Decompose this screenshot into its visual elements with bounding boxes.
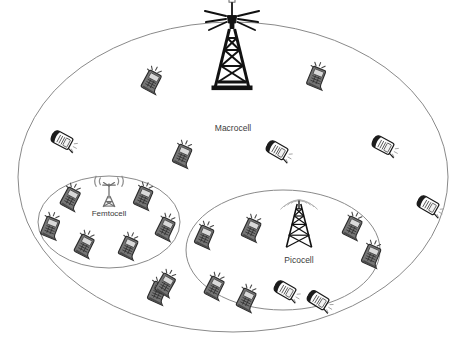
phone-pico-nw <box>239 212 267 243</box>
phone-macro-center-l <box>170 138 198 169</box>
user-equipment-group <box>38 60 445 314</box>
phone-macro-se <box>305 289 335 314</box>
phone-femto-se <box>116 230 144 261</box>
macrocell-tower <box>205 0 259 90</box>
macrocell-label: Macrocell <box>215 123 251 133</box>
picocell-label: Picocell <box>284 255 313 265</box>
phone-femto-ne <box>131 180 159 211</box>
phone-macro-ne-upper <box>304 60 331 90</box>
picocell-tower <box>280 200 317 247</box>
phone-femto-nw <box>58 181 87 212</box>
coverage-ellipses <box>18 22 448 332</box>
phone-femto-sw <box>72 228 100 259</box>
phone-macro-center-r <box>264 139 294 164</box>
macrocell-boundary <box>18 22 448 332</box>
phone-pico-e <box>359 238 387 269</box>
phone-macro-e-right <box>370 134 400 158</box>
phone-macro-w-left <box>49 129 79 153</box>
diagram-canvas: MacrocellFemtocellPicocell <box>0 0 469 347</box>
phone-macro-nw-upper <box>139 64 168 95</box>
phone-pico-sw <box>202 270 230 301</box>
phone-femto-w <box>38 210 65 240</box>
femtocell-tower <box>95 176 123 207</box>
phone-pico-ne <box>340 210 368 241</box>
femtocell-label: Femtocell <box>92 209 127 218</box>
network-diagram: MacrocellFemtocellPicocell <box>0 0 469 347</box>
phone-pico-s <box>272 279 302 304</box>
base-stations <box>95 0 318 247</box>
